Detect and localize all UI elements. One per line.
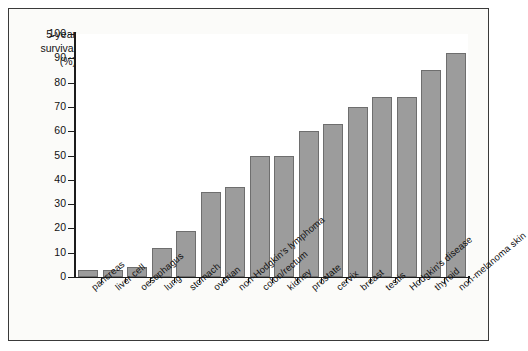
y-axis-tick-label-text: 90 <box>40 52 66 63</box>
y-axis-tick-label: 30 <box>36 198 66 210</box>
y-axis-tick-label-text: 50 <box>40 150 66 161</box>
y-axis-tick-label-text: 0 <box>40 271 66 282</box>
y-axis-tick-label-text: 60 <box>40 125 66 136</box>
y-axis-tick-label: 50 <box>36 150 66 162</box>
bar <box>421 70 441 277</box>
y-axis-tick-label: 90 <box>36 52 66 64</box>
y-axis-tick <box>68 131 75 132</box>
y-axis-tick-label-text: 70 <box>40 101 66 112</box>
y-axis-tick-label: 20 <box>36 222 66 234</box>
bar <box>372 97 392 277</box>
y-axis-tick-label: 100 <box>36 28 66 40</box>
plot-area <box>76 34 468 277</box>
y-axis-tick <box>68 83 75 84</box>
y-axis-tick-label-text: 10 <box>40 247 66 258</box>
bar <box>397 97 417 277</box>
y-axis-tick-label: 60 <box>36 125 66 137</box>
y-axis-tick-label-text: 20 <box>40 222 66 233</box>
y-axis-tick-label-text: 100 <box>40 28 66 39</box>
y-axis-tick <box>68 228 75 229</box>
y-axis-tick-label: 10 <box>36 247 66 259</box>
bar <box>348 107 368 277</box>
y-axis-tick-label-text: 40 <box>40 174 66 185</box>
y-axis-tick <box>68 156 75 157</box>
y-axis-tick-label: 80 <box>36 77 66 89</box>
y-axis-tick <box>68 58 75 59</box>
y-axis-tick-label-text: 30 <box>40 198 66 209</box>
y-axis-tick <box>68 107 75 108</box>
y-axis-tick-label: 70 <box>36 101 66 113</box>
bar <box>323 124 343 277</box>
y-axis-tick-label: 40 <box>36 174 66 186</box>
y-axis-tick <box>68 34 75 35</box>
y-axis-tick <box>68 204 75 205</box>
y-axis-tick <box>68 253 75 254</box>
bar <box>78 270 98 277</box>
y-axis-tick <box>68 180 75 181</box>
y-axis-tick-label-text: 80 <box>40 77 66 88</box>
y-axis-tick <box>68 277 75 278</box>
y-axis-tick-label: 0 <box>36 271 66 283</box>
